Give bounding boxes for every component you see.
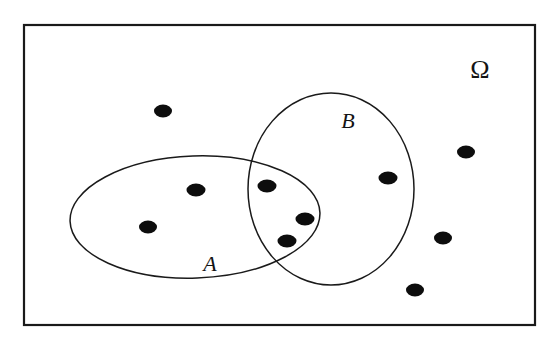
sample-point <box>154 105 172 118</box>
figure-background <box>0 0 556 342</box>
venn-diagram-figure: Ω A B <box>0 0 556 342</box>
set-b-label: B <box>341 108 354 133</box>
sample-point <box>296 213 315 226</box>
sample-point <box>379 172 398 185</box>
sample-point <box>258 180 277 193</box>
venn-diagram-canvas: Ω A B <box>0 0 556 342</box>
sample-point <box>406 284 424 297</box>
sample-point <box>278 235 297 248</box>
sample-point <box>139 221 157 234</box>
set-a-label: A <box>201 251 217 276</box>
sample-point <box>434 232 452 245</box>
universe-label-omega: Ω <box>470 55 489 84</box>
sample-point <box>457 146 475 159</box>
sample-point <box>187 184 206 197</box>
